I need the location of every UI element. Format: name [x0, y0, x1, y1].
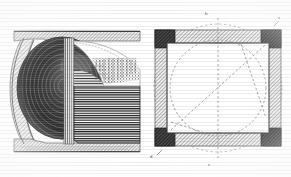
label-bottom-left: d [150, 154, 153, 159]
label-top: b [205, 11, 208, 16]
figure-left-sectional-elevation [0, 0, 146, 177]
vertical-hatched-column [64, 38, 74, 144]
engraving-plate: b a c d [0, 0, 291, 177]
figure-right-drawing [145, 0, 291, 177]
figure-left-drawing [0, 0, 146, 177]
label-top-right: a [278, 15, 280, 20]
figure-right-plan-view: b a c d [145, 0, 291, 177]
label-bottom: c [208, 162, 210, 167]
